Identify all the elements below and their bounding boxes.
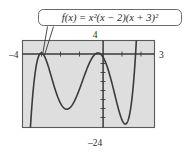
x-max-label: 3 <box>159 50 164 60</box>
graph-figure: f(x) = x²(x − 2)(x + 3)² 4 –4 3 –24 <box>0 0 185 156</box>
formula-label: f(x) = x²(x − 2)(x + 3)² <box>62 12 159 24</box>
y-min-label: –24 <box>87 138 103 148</box>
y-max-label: 4 <box>93 30 98 40</box>
figure-container: f(x) = x²(x − 2)(x + 3)² 4 –4 3 –24 <box>0 0 185 156</box>
x-min-label: –4 <box>8 50 19 60</box>
